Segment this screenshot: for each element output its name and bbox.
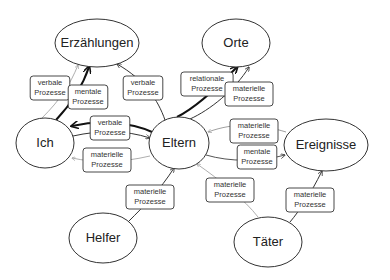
edge-label: materielleProzesse [206,178,254,202]
node-label: Erzählungen [61,35,134,50]
edge-label: materielleProzesse [225,82,273,106]
edge-label-process-word: Prozesse [233,94,264,103]
node-ich: Ich [16,118,74,168]
nodes-layer: ErzählungenOrteIchElternEreignisseHelfer… [16,19,368,267]
node-label: Eltern [162,135,196,150]
edge-label: materielleProzesse [126,185,174,209]
edge-label-process-word: Prozesse [127,88,158,97]
edge-label-process-type: verbale [98,118,123,127]
node-orte: Orte [202,19,270,67]
edge-label: materielleProzesse [286,188,334,212]
node-taeter: Täter [234,217,302,267]
edge-label: materielleProzesse [83,148,131,172]
edge-label-process-type: materielle [91,150,124,159]
edge-label-process-type: materielle [238,121,271,130]
edge-label-process-word: Prozesse [214,190,245,199]
edge-label: mentaleProzesse [68,85,108,109]
edge-label: verbaleProzesse [90,116,130,140]
edge-label: materielleProzesse [230,119,278,143]
edge-label-process-word: Prozesse [72,97,103,106]
node-helfer: Helfer [69,213,137,263]
edge-label-process-word: Prozesse [34,88,65,97]
process-diagram: ErzählungenOrteIchElternEreignisseHelfer… [0,0,390,280]
node-erzaehlungen: Erzählungen [55,19,139,67]
edge-label-process-type: materielle [233,84,266,93]
node-eltern: Eltern [149,117,209,169]
edge-label-process-type: verbale [131,78,156,87]
edge-label: verbaleProzesse [30,76,70,100]
node-label: Ereignisse [296,137,357,152]
edge-label-process-type: verbale [38,78,63,87]
node-label: Orte [223,35,248,50]
edge-label: verbaleProzesse [123,76,163,100]
edge-label-process-word: Prozesse [238,131,269,140]
edge-label-process-type: relationale [190,74,225,83]
edge-label: mentaleProzesse [237,145,277,169]
edge-label-process-word: Prozesse [94,128,125,137]
node-label: Helfer [86,230,121,245]
edge-label-process-type: materielle [214,180,247,189]
edge-label-process-type: mentale [75,87,102,96]
edge-label-process-type: mentale [244,147,271,156]
diagram-canvas: ErzählungenOrteIchElternEreignisseHelfer… [0,0,390,280]
node-label: Täter [253,234,284,249]
edge-label-process-word: Prozesse [191,84,222,93]
node-label: Ich [36,135,53,150]
node-ereignisse: Ereignisse [284,119,368,171]
edge-label-process-word: Prozesse [241,157,272,166]
edge-label-process-word: Prozesse [134,197,165,206]
edge-label-process-word: Prozesse [91,160,122,169]
edge-label-process-type: materielle [294,190,327,199]
edge-label-process-type: materielle [134,187,167,196]
edge-label-process-word: Prozesse [294,200,325,209]
